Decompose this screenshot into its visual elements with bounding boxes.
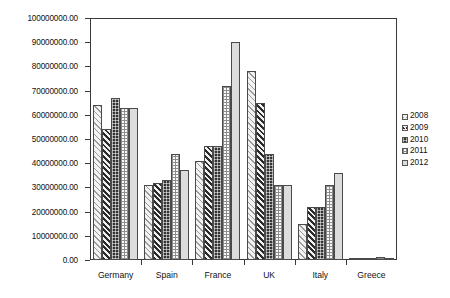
x-tick-mark [244, 260, 245, 265]
bar-france-2012 [231, 42, 240, 260]
bar-group-france [192, 18, 243, 260]
legend-item-2010: 2010 [402, 135, 428, 144]
y-axis: 100000000.0090000000.0080000000.00700000… [0, 0, 86, 298]
legend: 20082009201020112012 [402, 112, 428, 167]
y-tick-label: 30000000.00 [32, 183, 78, 192]
legend-swatch-icon [402, 137, 408, 143]
bar-group-germany [90, 18, 141, 260]
legend-label: 2010 [410, 136, 428, 144]
legend-label: 2012 [410, 159, 428, 167]
bar-france-2009 [204, 146, 213, 260]
x-category-label: Italy [295, 262, 346, 280]
bar-spain-2011 [171, 154, 180, 260]
y-tick-mark [85, 260, 90, 261]
bar-germany-2008 [93, 105, 102, 260]
bar-france-2010 [213, 146, 222, 260]
x-tick-mark [295, 260, 296, 265]
legend-item-2011: 2011 [402, 147, 428, 156]
bar-greece-2012 [385, 258, 394, 260]
bar-greece-2010 [367, 258, 376, 260]
bar-uk-2010 [265, 154, 274, 260]
y-tick-label: 40000000.00 [32, 159, 78, 168]
bar-greece-2008 [349, 258, 358, 260]
bar-group-spain [141, 18, 192, 260]
bar-italy-2012 [334, 173, 343, 260]
y-tick-label: 100000000.00 [27, 14, 78, 23]
bar-italy-2011 [325, 185, 334, 260]
bar-greece-2011 [376, 257, 385, 260]
legend-item-2012: 2012 [402, 158, 428, 167]
y-tick-label: 50000000.00 [32, 135, 78, 144]
x-category-label: France [192, 262, 243, 280]
legend-swatch-icon [402, 148, 408, 154]
bar-spain-2008 [144, 185, 153, 260]
bar-chart: 100000000.0090000000.0080000000.00700000… [0, 0, 450, 298]
bar-uk-2009 [256, 103, 265, 260]
legend-label: 2011 [410, 147, 428, 155]
bar-italy-2009 [307, 207, 316, 260]
x-tick-mark [192, 260, 193, 265]
bar-france-2008 [195, 161, 204, 260]
bar-italy-2010 [316, 207, 325, 260]
y-tick-label: 60000000.00 [32, 110, 78, 119]
y-tick-label: 70000000.00 [32, 86, 78, 95]
bar-france-2011 [222, 86, 231, 260]
bar-germany-2011 [120, 108, 129, 260]
legend-item-2009: 2009 [402, 124, 428, 133]
bar-germany-2010 [111, 98, 120, 260]
y-tick-label: 90000000.00 [32, 38, 78, 47]
bar-group-uk [244, 18, 295, 260]
legend-label: 2008 [410, 112, 428, 120]
bar-uk-2012 [283, 185, 292, 260]
x-tick-mark [141, 260, 142, 265]
bars-layer [90, 18, 397, 260]
y-tick-label: 10000000.00 [32, 231, 78, 240]
x-category-label: UK [244, 262, 295, 280]
bar-spain-2012 [180, 170, 189, 260]
y-tick-label: 0.00 [63, 256, 78, 265]
bar-group-italy [295, 18, 346, 260]
bar-germany-2012 [129, 108, 138, 260]
bar-group-greece [346, 18, 397, 260]
y-tick-label: 80000000.00 [32, 62, 78, 71]
bar-uk-2011 [274, 185, 283, 260]
legend-item-2008: 2008 [402, 112, 428, 121]
legend-swatch-icon [402, 114, 408, 120]
y-tick-label: 20000000.00 [32, 207, 78, 216]
x-category-label: Greece [346, 262, 397, 280]
bar-spain-2009 [153, 183, 162, 260]
bar-italy-2008 [298, 224, 307, 260]
bar-germany-2009 [102, 129, 111, 260]
legend-swatch-icon [402, 160, 408, 166]
bar-uk-2008 [247, 71, 256, 260]
legend-swatch-icon [402, 125, 408, 131]
bar-spain-2010 [162, 180, 171, 260]
x-category-label: Spain [141, 262, 192, 280]
legend-label: 2009 [410, 124, 428, 132]
x-tick-mark [346, 260, 347, 265]
bar-greece-2009 [358, 258, 367, 260]
x-category-label: Germany [90, 262, 141, 280]
